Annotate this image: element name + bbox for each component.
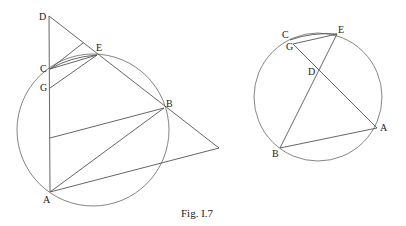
figure-caption: Fig. I.7 — [181, 207, 214, 219]
label-E: E — [96, 42, 102, 53]
left-circle — [17, 54, 169, 206]
figure-canvas: D E C G B A C G E D A B Fig. I.7 — [0, 0, 406, 226]
label-A: A — [380, 122, 388, 133]
label-B: B — [272, 148, 279, 159]
right-figure: C G E D A B — [254, 24, 388, 161]
left-figure: D E C G B A — [17, 11, 219, 206]
right-circle — [254, 33, 382, 161]
line-apex-A — [50, 148, 219, 192]
line-C-tick — [50, 43, 83, 69]
line-CE — [50, 55, 97, 69]
label-A: A — [43, 194, 51, 205]
label-D: D — [308, 66, 315, 77]
label-B: B — [166, 98, 173, 109]
label-G: G — [40, 82, 47, 93]
line-BA — [280, 128, 377, 148]
label-E: E — [338, 24, 344, 35]
label-C: C — [282, 29, 289, 40]
line-GA — [293, 44, 377, 128]
line-GE — [50, 55, 97, 88]
label-C: C — [40, 63, 47, 74]
label-D: D — [39, 11, 46, 22]
line-AB — [50, 108, 164, 192]
line-D-apex — [49, 16, 219, 148]
line-mid-B — [50, 108, 164, 138]
label-G: G — [286, 41, 293, 52]
line-DA — [49, 16, 50, 192]
